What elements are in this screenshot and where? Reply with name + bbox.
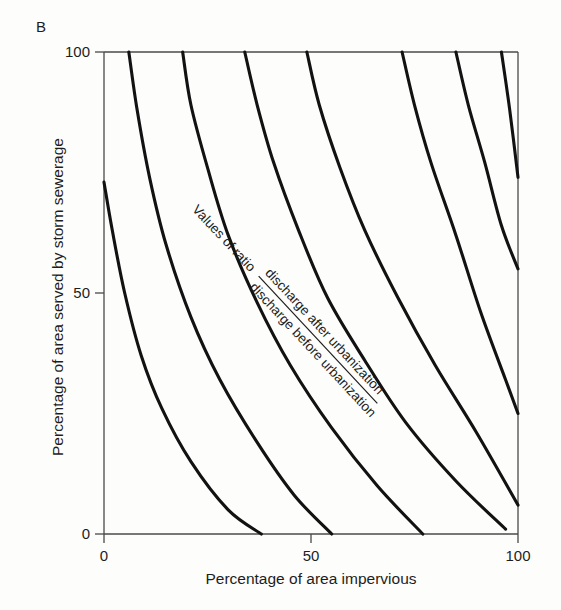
annotation-lead-text: Values of ratio <box>189 202 258 275</box>
y-tick-label-100: 100 <box>65 43 90 60</box>
annotation-numerator: discharge after urbanization <box>262 265 387 397</box>
y-tick-label-0: 0 <box>82 525 90 542</box>
y-tick-label-50: 50 <box>73 284 90 301</box>
contour-curve <box>402 52 518 414</box>
contour-curve <box>104 182 261 534</box>
x-axis-ticks: 0 50 100 <box>100 534 531 564</box>
plot-svg: 100 50 0 0 50 100 Values of ratio discha… <box>0 0 561 610</box>
y-axis-ticks: 100 50 0 <box>65 43 104 542</box>
x-tick-label-50: 50 <box>303 547 320 564</box>
contour-curves <box>104 52 518 534</box>
contour-curve <box>501 52 518 177</box>
contour-curve <box>183 52 423 534</box>
contour-curve <box>129 52 332 534</box>
figure-panel-b: B Percentage of area served by storm sew… <box>0 0 561 610</box>
x-tick-label-0: 0 <box>100 547 108 564</box>
x-tick-label-100: 100 <box>505 547 530 564</box>
plot-frame <box>104 52 518 534</box>
contour-curve <box>456 52 518 269</box>
